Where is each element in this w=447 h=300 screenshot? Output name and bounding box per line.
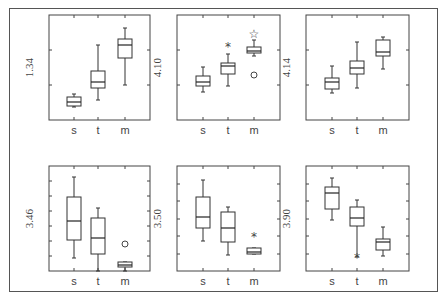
- x-tick-label: m: [378, 124, 387, 136]
- box-t: [221, 54, 235, 86]
- panel-3: stm4.14: [280, 15, 409, 136]
- panel-5: stm3.50*: [151, 166, 280, 287]
- outlier-star: ☆: [249, 27, 260, 41]
- y-axis-label: 1.34: [23, 57, 35, 77]
- x-tick-label: t: [355, 275, 358, 287]
- outlier-asterisk: *: [354, 251, 360, 265]
- box-m: [118, 28, 132, 85]
- x-tick-label: s: [329, 124, 335, 136]
- x-tick-label: t: [355, 124, 358, 136]
- panel-1: stm1.34: [23, 15, 150, 136]
- box-s: [196, 180, 210, 241]
- x-tick-label: s: [329, 275, 335, 287]
- box-s: [196, 67, 210, 92]
- x-tick-label: s: [200, 275, 206, 287]
- outlier-asterisk: *: [225, 40, 231, 54]
- box-m: [247, 40, 261, 56]
- y-axis-label: 3.46: [23, 208, 35, 228]
- x-tick-label: s: [71, 124, 77, 136]
- box-s: [325, 178, 339, 220]
- panel-2: stm4.10*☆: [151, 15, 280, 136]
- box-t: [91, 45, 105, 100]
- y-axis-label: 4.10: [151, 57, 163, 77]
- outlier-asterisk: *: [251, 230, 257, 244]
- box-m: [118, 262, 132, 271]
- plot-area: [49, 15, 150, 120]
- y-axis-label: 3.50: [151, 208, 163, 228]
- x-tick-label: t: [96, 275, 99, 287]
- x-tick-label: m: [120, 275, 129, 287]
- box-s: [67, 177, 81, 258]
- panel-6: stm3.90*: [280, 166, 409, 287]
- box-t: [350, 42, 364, 88]
- x-tick-label: m: [378, 275, 387, 287]
- y-axis-label: 4.14: [280, 57, 292, 77]
- box-m: [376, 227, 390, 256]
- box-s: [67, 94, 81, 107]
- box-m: [376, 37, 390, 69]
- x-tick-label: s: [71, 275, 77, 287]
- x-tick-label: t: [226, 275, 229, 287]
- y-axis-label: 3.90: [280, 208, 292, 228]
- box-t: [221, 207, 235, 255]
- x-tick-label: t: [226, 124, 229, 136]
- x-tick-label: m: [120, 124, 129, 136]
- box-m: [247, 248, 261, 254]
- x-tick-label: s: [200, 124, 206, 136]
- panel-4: stm3.46: [23, 166, 150, 287]
- box-t: [91, 208, 105, 271]
- box-t: [350, 200, 364, 257]
- x-tick-label: m: [249, 124, 258, 136]
- x-tick-label: t: [96, 124, 99, 136]
- outlier-circle: [251, 72, 257, 78]
- outlier-circle: [122, 241, 128, 247]
- box-s: [325, 66, 339, 93]
- boxplot-grid: stm1.34stm4.10*☆stm4.14stm3.46stm3.50*st…: [0, 0, 447, 300]
- x-tick-label: m: [249, 275, 258, 287]
